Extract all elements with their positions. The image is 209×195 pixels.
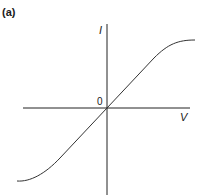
iv-plot <box>0 0 209 195</box>
iv-curve <box>17 40 195 181</box>
